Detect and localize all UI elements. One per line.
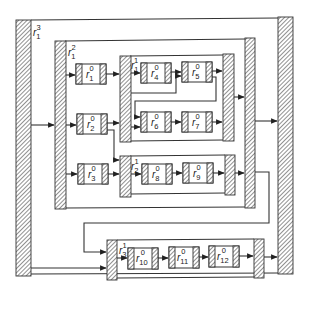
r3-1-input-bar (107, 240, 117, 280)
block-r6-0: r60 (141, 112, 171, 132)
r1-1-output-bar (223, 54, 234, 141)
block-r12-0: r120 (209, 246, 239, 267)
r2-1-output-bar (225, 155, 235, 195)
r1-3-output-bar (278, 17, 293, 274)
block-r9-0: r90 (183, 163, 213, 183)
block-r1-0: r10 (76, 64, 106, 84)
block-diagram: r13 r12 r11 r21 (0, 0, 310, 314)
r1-1-label: r11 (131, 56, 138, 74)
r1-2-label: r12 (68, 43, 76, 61)
r1-2-output-bar (245, 38, 255, 208)
block-r4-0: r40 (141, 63, 171, 83)
block-r2-0: r20 (77, 114, 107, 134)
container-r2-1: r21 (120, 155, 235, 197)
r1-3-input-bar (16, 20, 31, 276)
block-r3-0: r30 (78, 164, 108, 184)
r2-1-label: r21 (131, 157, 139, 175)
r1-3-label: r13 (33, 23, 41, 41)
block-r8-0: r80 (142, 164, 172, 184)
block-r7-0: r70 (182, 112, 212, 132)
block-r5-0: r50 (182, 62, 212, 82)
r2-1-input-bar (120, 156, 131, 197)
container-r1-1: r11 (120, 54, 234, 142)
r1-1-input-bar (120, 56, 131, 142)
r3-1-output-bar (254, 239, 264, 278)
r1-2-input-bar (55, 41, 66, 209)
block-r11-0: r110 (169, 247, 199, 268)
block-r10-0: r100 (128, 248, 158, 269)
r3-1-label: r31 (119, 241, 127, 259)
